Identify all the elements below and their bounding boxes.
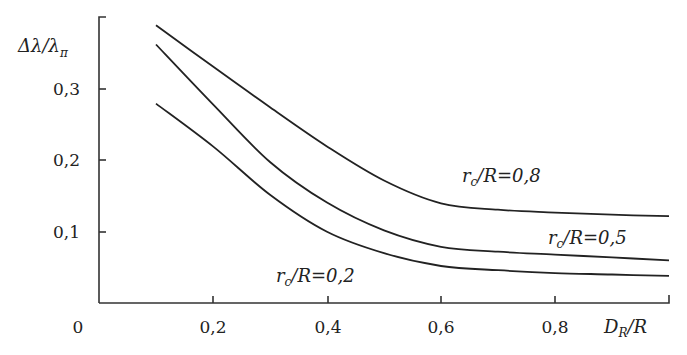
curve-label-rest: /R=0,8 bbox=[475, 165, 540, 186]
axes bbox=[99, 17, 669, 303]
x-axis-label: DR/R bbox=[603, 316, 647, 340]
curve-label-0-5: rc/R=0,5 bbox=[548, 227, 627, 251]
y-tick-label: 0,3 bbox=[53, 79, 80, 99]
y-axis-label-main: Δλ/λ bbox=[17, 35, 60, 56]
curve-label-0-8: rc/R=0,8 bbox=[462, 165, 541, 189]
curve-series-2 bbox=[156, 104, 669, 276]
x-axis-label-tail: /R bbox=[625, 316, 647, 337]
curve-label-rest: /R=0,5 bbox=[561, 227, 626, 248]
x-axis bbox=[99, 295, 669, 303]
x-tick-label: 0,6 bbox=[427, 317, 454, 337]
chart: 0,1 0,2 0,3 0 0,2 0,4 0,6 0,8 Δλ/λπ DR/R… bbox=[0, 0, 687, 355]
y-axis-label-sub: π bbox=[59, 46, 69, 60]
x-tick-label: 0,2 bbox=[199, 317, 226, 337]
y-tick-label: 0,1 bbox=[53, 222, 80, 242]
x-axis-label-sub: R bbox=[617, 326, 627, 340]
y-tick-label: 0,2 bbox=[53, 150, 80, 170]
x-axis-label-main: D bbox=[603, 316, 619, 337]
x-tick-label: 0,4 bbox=[314, 317, 341, 337]
origin-label: 0 bbox=[73, 317, 84, 337]
y-axis-label: Δλ/λπ bbox=[17, 35, 69, 60]
curve-label-rest: /R=0,2 bbox=[289, 265, 354, 286]
curve-label-0-2: rc/R=0,2 bbox=[276, 265, 355, 289]
curve-series-0 bbox=[156, 25, 669, 216]
x-tick-label: 0,8 bbox=[541, 317, 568, 337]
